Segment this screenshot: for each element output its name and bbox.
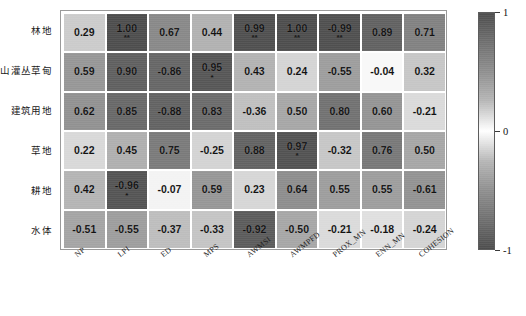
heatmap-cell-value: 0.42 — [74, 184, 94, 195]
y-axis-label: 林地 — [0, 10, 56, 50]
heatmap-cell-value: 0.50 — [287, 106, 307, 117]
heatmap-cell: 1.00** — [107, 14, 148, 51]
heatmap-cell-value: 0.55 — [372, 184, 392, 195]
y-axis-label: 耕地 — [0, 170, 56, 210]
heatmap-cell-value: 0.55 — [329, 184, 349, 195]
heatmap-cell: 0.83 — [192, 93, 233, 130]
heatmap-cell-value: -0.50 — [285, 224, 309, 235]
significance-marker: ** — [294, 34, 300, 42]
colorbar-tick-label: -1 — [503, 245, 512, 256]
heatmap-cell-value: 0.95 — [202, 62, 222, 73]
heatmap-cell: 0.75 — [149, 132, 190, 169]
y-axis-label: 草地 — [0, 130, 56, 170]
heatmap-cell: -0.88 — [149, 93, 190, 130]
heatmap-cell: 0.90 — [107, 53, 148, 90]
heatmap-cell: 0.50 — [404, 132, 445, 169]
heatmap-cell: -0.07 — [149, 171, 190, 208]
colorbar-gradient — [478, 12, 495, 250]
significance-marker: ** — [336, 34, 342, 42]
heatmap-cell-value: 0.22 — [74, 145, 94, 156]
heatmap-cell-value: 0.88 — [244, 145, 264, 156]
heatmap-cell: 0.71 — [404, 14, 445, 51]
heatmap-cell: 0.80 — [319, 93, 360, 130]
heatmap-cell: 0.85 — [107, 93, 148, 130]
heatmap-cell: -0.96* — [107, 171, 148, 208]
heatmap-cell: 1.00** — [277, 14, 318, 51]
heatmap-cell-value: 0.80 — [329, 106, 349, 117]
heatmap-cell: 0.42 — [64, 171, 105, 208]
heatmap-cell-value: 0.62 — [74, 106, 94, 117]
colorbar-tick — [495, 131, 500, 132]
heatmap-cell-value: -0.37 — [157, 224, 181, 235]
heatmap-cell-value: 0.43 — [244, 66, 264, 77]
heatmap-cell: 0.60 — [362, 93, 403, 130]
heatmap-cell: 0.59 — [64, 53, 105, 90]
heatmap-cell: -0.25 — [192, 132, 233, 169]
heatmap-cell-value: 0.32 — [415, 66, 435, 77]
y-axis-label: 高山灌丛草甸 — [0, 50, 56, 90]
heatmap-cell-value: -0.61 — [413, 184, 437, 195]
heatmap-cell-value: 0.23 — [244, 184, 264, 195]
heatmap-cell: 0.50 — [277, 93, 318, 130]
heatmap-cell-value: 0.44 — [202, 27, 222, 38]
heatmap-cell: -0.86 — [149, 53, 190, 90]
heatmap-plot-area: 0.291.00**0.670.440.99**1.00**-0.99**0.8… — [60, 10, 447, 250]
x-axis-labels: NPLPIEDMPSAWMSIAWMPFDPROX_MNENN_MNCOHESI… — [60, 250, 447, 310]
heatmap-cell: 0.55 — [319, 171, 360, 208]
heatmap-cell: 0.43 — [234, 53, 275, 90]
heatmap-cell: -0.61 — [404, 171, 445, 208]
heatmap-cell: 0.23 — [234, 171, 275, 208]
heatmap-cell: 0.24 — [277, 53, 318, 90]
heatmap-cell-value: 0.29 — [74, 27, 94, 38]
y-axis-labels: 林地高山灌丛草甸建筑用地草地耕地水体 — [0, 10, 56, 250]
heatmap-cell-value: -0.04 — [370, 66, 394, 77]
heatmap-cell: -0.51 — [64, 211, 105, 248]
colorbar-tick — [495, 12, 500, 13]
heatmap-cell: 0.67 — [149, 14, 190, 51]
heatmap-cell-value: -0.92 — [243, 224, 267, 235]
heatmap-cell: 0.64 — [277, 171, 318, 208]
heatmap-cell: -0.21 — [404, 93, 445, 130]
heatmap-cell-grid: 0.291.00**0.670.440.99**1.00**-0.99**0.8… — [63, 13, 446, 249]
heatmap-cell: 0.32 — [404, 53, 445, 90]
heatmap-cell-value: 0.45 — [117, 145, 137, 156]
heatmap-cell-value: -0.24 — [413, 224, 437, 235]
heatmap-cell-value: -0.36 — [243, 106, 267, 117]
significance-marker: * — [125, 192, 128, 200]
heatmap-cell: 0.99** — [234, 14, 275, 51]
heatmap-cell: -0.55 — [319, 53, 360, 90]
heatmap-cell-value: -0.86 — [157, 66, 181, 77]
heatmap-cell-value: -0.33 — [200, 224, 224, 235]
colorbar-tick — [495, 250, 500, 251]
heatmap-cell-value: 0.60 — [372, 106, 392, 117]
heatmap-cell: 0.97* — [277, 132, 318, 169]
heatmap-cell: 0.76 — [362, 132, 403, 169]
y-axis-label: 建筑用地 — [0, 90, 56, 130]
colorbar-legend: 10-1 — [478, 12, 524, 260]
heatmap-cell-value: 0.89 — [372, 27, 392, 38]
heatmap-cell: 0.95* — [192, 53, 233, 90]
heatmap-cell: 0.59 — [192, 171, 233, 208]
heatmap-cell-value: 0.76 — [372, 145, 392, 156]
heatmap-cell-value: 0.59 — [202, 184, 222, 195]
heatmap-cell-value: -0.88 — [157, 106, 181, 117]
heatmap-cell: -0.36 — [234, 93, 275, 130]
y-axis-label: 水体 — [0, 210, 56, 250]
heatmap-cell-value: 0.50 — [415, 145, 435, 156]
heatmap-cell-value: -0.55 — [328, 66, 352, 77]
heatmap-cell-value: -0.21 — [328, 224, 352, 235]
heatmap-cell-value: 0.90 — [117, 66, 137, 77]
heatmap-cell: 0.45 — [107, 132, 148, 169]
significance-marker: * — [210, 74, 213, 82]
heatmap-cell-value: 0.24 — [287, 66, 307, 77]
heatmap-cell: -0.37 — [149, 211, 190, 248]
significance-marker: ** — [251, 34, 257, 42]
heatmap-cell: 0.22 — [64, 132, 105, 169]
heatmap-cell-value: -0.07 — [157, 184, 181, 195]
heatmap-cell: 0.62 — [64, 93, 105, 130]
heatmap-cell-value: -0.51 — [72, 224, 96, 235]
colorbar-tick-label: 0 — [503, 126, 508, 137]
figure-caption — [12, 306, 312, 316]
heatmap-cell: -0.04 — [362, 53, 403, 90]
heatmap-cell-value: -0.21 — [413, 106, 437, 117]
